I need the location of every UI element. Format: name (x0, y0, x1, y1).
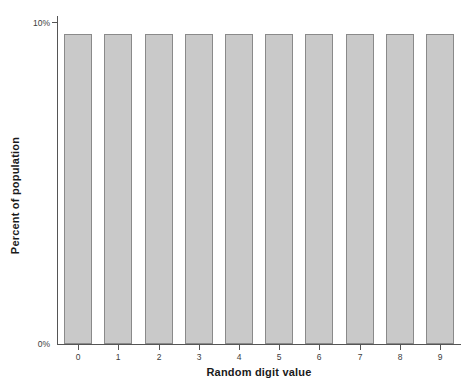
y-axis-title: Percent of population (0, 0, 30, 391)
bar (185, 34, 213, 344)
x-tick-mark (118, 345, 119, 350)
x-tick-label: 7 (348, 353, 372, 362)
x-tick-mark (239, 345, 240, 350)
x-tick-label: 6 (307, 353, 331, 362)
x-tick-mark (78, 345, 79, 350)
chart-screenshot: Percent of population 10% 0% 0123456789 … (0, 0, 474, 391)
bar (145, 34, 173, 344)
x-tick-label: 5 (267, 353, 291, 362)
x-tick-label: 3 (187, 353, 211, 362)
x-tick-mark (400, 345, 401, 350)
bar (346, 34, 374, 344)
bar (426, 34, 454, 344)
x-tick-label: 1 (106, 353, 130, 362)
x-tick-label: 2 (147, 353, 171, 362)
x-tick-label: 8 (388, 353, 412, 362)
x-axis-title: Random digit value (57, 366, 461, 378)
bar (104, 34, 132, 344)
y-tick-mark-top (52, 22, 57, 23)
bars-layer (58, 22, 460, 344)
x-tick-mark (319, 345, 320, 350)
bar (64, 34, 92, 344)
y-tick-label-bottom: 0% (10, 340, 50, 349)
bar (386, 34, 414, 344)
x-tick-mark (440, 345, 441, 350)
x-tick-label: 4 (227, 353, 251, 362)
x-tick-label: 0 (66, 353, 90, 362)
x-tick-mark (159, 345, 160, 350)
x-tick-label: 9 (428, 353, 452, 362)
bar (305, 34, 333, 344)
bar (265, 34, 293, 344)
x-tick-mark (199, 345, 200, 350)
plot-area (58, 22, 460, 344)
y-tick-label-top: 10% (10, 19, 50, 28)
bar (225, 34, 253, 344)
x-tick-mark (360, 345, 361, 350)
x-tick-mark (279, 345, 280, 350)
